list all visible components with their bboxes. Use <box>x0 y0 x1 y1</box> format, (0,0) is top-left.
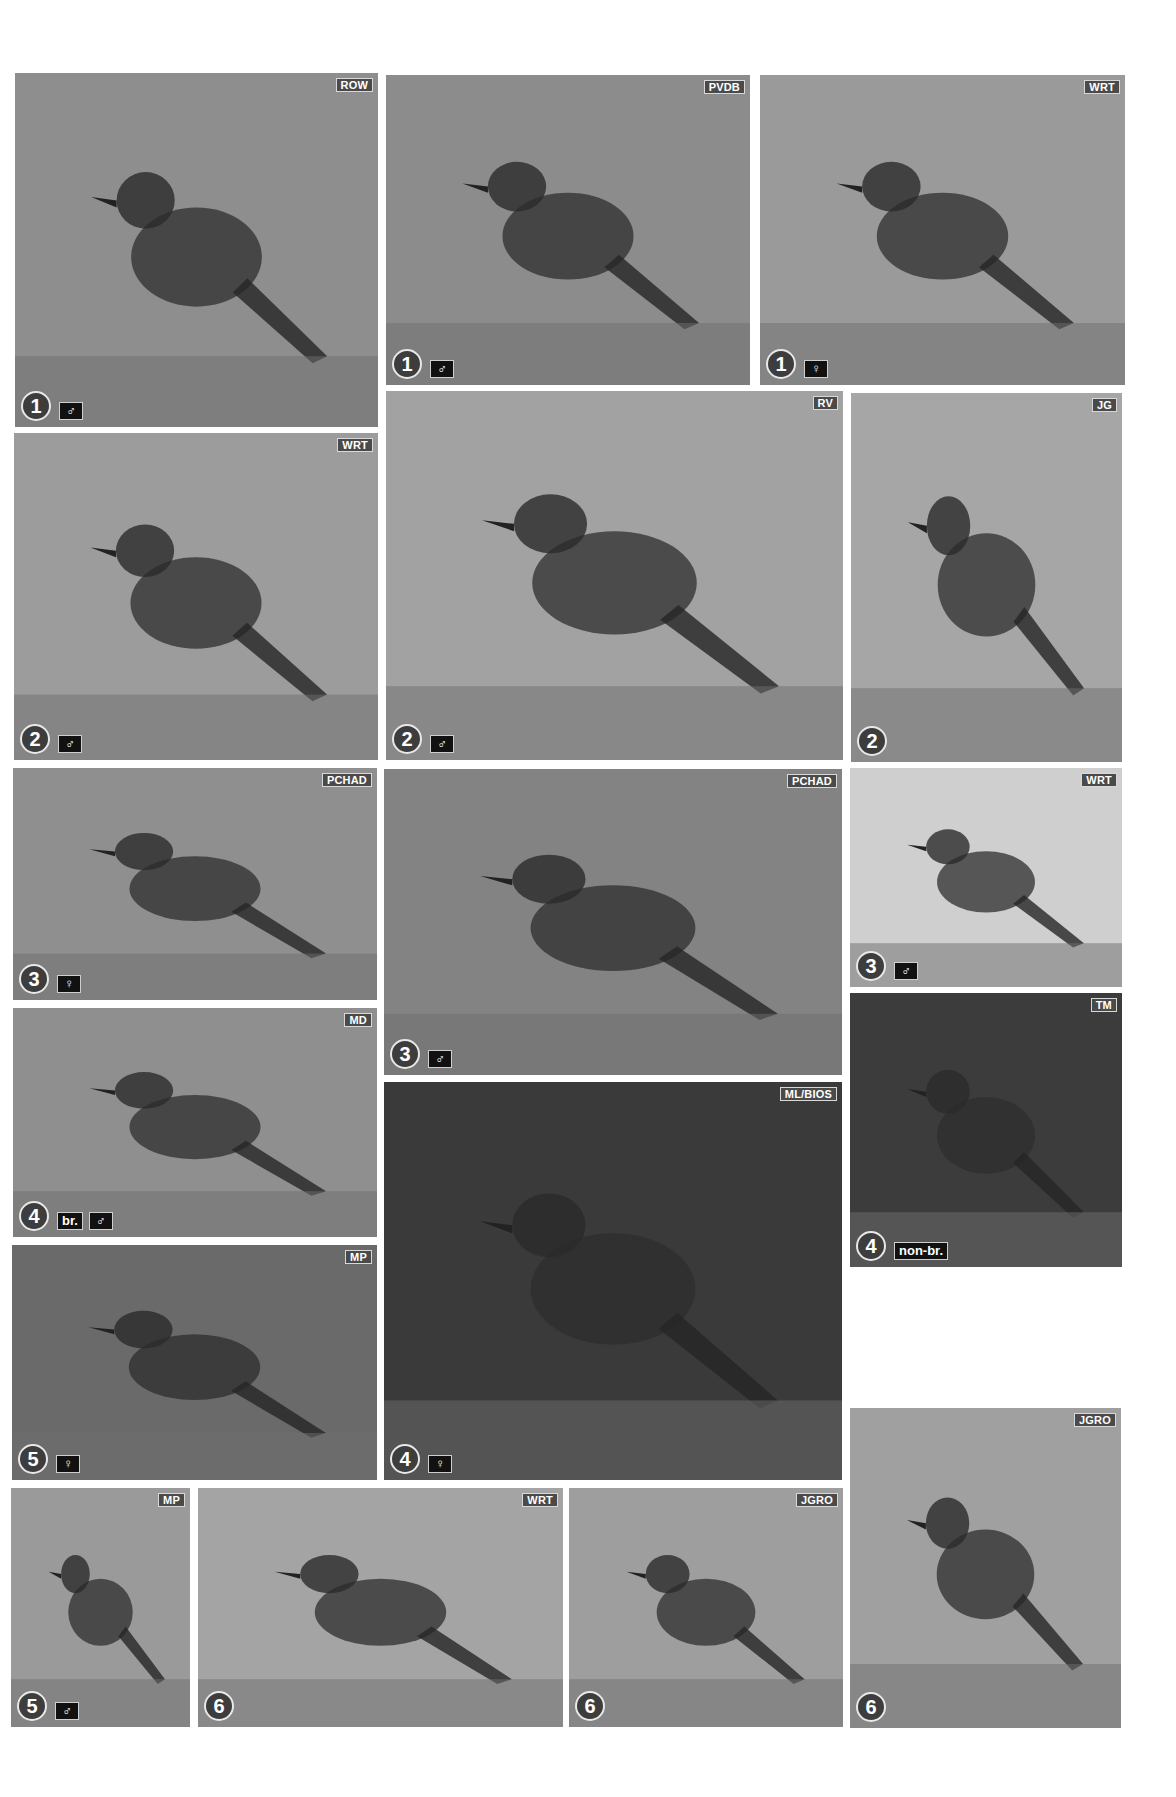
bird-silhouette-icon <box>14 433 378 760</box>
bird-silhouette-icon <box>850 768 1122 987</box>
species-number-badge: 1 <box>766 349 796 379</box>
bird-photo-p2: PVDB 1 ♂ <box>386 75 750 385</box>
female-symbol-icon: ♀ <box>804 360 828 378</box>
photo-credit-label: TM <box>1091 998 1117 1012</box>
bird-silhouette-icon <box>851 393 1122 762</box>
female-symbol-icon: ♀ <box>56 1455 80 1473</box>
bird-silhouette-icon <box>569 1488 843 1727</box>
species-number-badge: 5 <box>17 1691 47 1721</box>
plumage-tags: ♀ <box>428 1455 452 1473</box>
bird-photo-p9: WRT 3 ♂ <box>850 768 1122 987</box>
photo-credit-label: WRT <box>1081 773 1117 787</box>
bird-photo-p5: RV 2 ♂ <box>386 391 843 760</box>
plumage-tags: ♀ <box>56 1455 80 1473</box>
species-number-badge: 3 <box>390 1039 420 1069</box>
bird-photo-p8: PCHAD 3 ♂ <box>384 769 842 1075</box>
bird-silhouette-icon <box>15 73 378 427</box>
bird-photo-p14: MP 5 ♂ <box>11 1488 190 1727</box>
bird-photo-p7: PCHAD 3 ♀ <box>13 768 377 1000</box>
bird-photo-p3: WRT 1 ♀ <box>760 75 1125 385</box>
photo-credit-label: WRT <box>337 438 373 452</box>
male-symbol-icon: ♂ <box>430 735 454 753</box>
bird-silhouette-icon <box>384 1082 842 1480</box>
species-number-badge: 4 <box>390 1444 420 1474</box>
male-symbol-icon: ♂ <box>89 1212 113 1230</box>
bird-silhouette-icon <box>850 1408 1121 1728</box>
species-number-badge: 3 <box>856 951 886 981</box>
bird-photo-p13: MP 5 ♀ <box>12 1245 377 1480</box>
photo-credit-label: PCHAD <box>787 774 837 788</box>
species-number-badge: 6 <box>204 1691 234 1721</box>
plumage-tags: ♂ <box>59 402 83 420</box>
photo-credit-label: RV <box>813 396 838 410</box>
photo-credit-label: PVDB <box>704 80 745 94</box>
plumage-tags: ♂ <box>428 1050 452 1068</box>
bird-silhouette-icon <box>384 769 842 1075</box>
bird-photo-p10: MD 4 br.♂ <box>13 1008 377 1237</box>
photo-credit-label: MP <box>158 1493 185 1507</box>
photo-credit-label: WRT <box>522 1493 558 1507</box>
bird-photo-p17: JGRO 6 <box>850 1408 1121 1728</box>
bird-photo-p12: TM 4 non-br. <box>850 993 1122 1267</box>
plumage-tags: ♀ <box>804 360 828 378</box>
species-number-badge: 3 <box>19 964 49 994</box>
male-symbol-icon: ♂ <box>55 1702 79 1720</box>
photo-credit-label: JGRO <box>1074 1413 1116 1427</box>
male-symbol-icon: ♂ <box>428 1050 452 1068</box>
male-symbol-icon: ♂ <box>58 735 82 753</box>
species-number-badge: 4 <box>19 1201 49 1231</box>
bird-silhouette-icon <box>850 993 1122 1267</box>
plumage-tags: ♂ <box>58 735 82 753</box>
bird-silhouette-icon <box>386 75 750 385</box>
plumage-tags: ♂ <box>894 962 918 980</box>
plumage-tag: non-br. <box>894 1242 948 1260</box>
plumage-tags: ♂ <box>55 1702 79 1720</box>
bird-silhouette-icon <box>386 391 843 760</box>
photo-credit-label: JGRO <box>796 1493 838 1507</box>
plumage-tags: br.♂ <box>57 1212 113 1230</box>
bird-photo-p1: ROW 1 ♂ <box>15 73 378 427</box>
bird-silhouette-icon <box>12 1245 377 1480</box>
bird-photo-p6: JG 2 <box>851 393 1122 762</box>
species-number-badge: 2 <box>20 724 50 754</box>
photo-credit-label: ML/BIOS <box>780 1087 837 1101</box>
plumage-tags: ♂ <box>430 735 454 753</box>
female-symbol-icon: ♀ <box>57 975 81 993</box>
plumage-tag: br. <box>57 1212 83 1230</box>
species-number-badge: 5 <box>18 1444 48 1474</box>
bird-silhouette-icon <box>13 1008 377 1237</box>
species-number-badge: 6 <box>575 1691 605 1721</box>
bird-photo-p4: WRT 2 ♂ <box>14 433 378 760</box>
bird-photo-p15: WRT 6 <box>198 1488 563 1727</box>
photo-credit-label: JG <box>1092 398 1117 412</box>
bird-silhouette-icon <box>13 768 377 1000</box>
photo-credit-label: MP <box>345 1250 372 1264</box>
species-number-badge: 1 <box>392 349 422 379</box>
male-symbol-icon: ♂ <box>59 402 83 420</box>
bird-silhouette-icon <box>760 75 1125 385</box>
species-number-badge: 6 <box>856 1692 886 1722</box>
male-symbol-icon: ♂ <box>430 360 454 378</box>
bird-silhouette-icon <box>11 1488 190 1727</box>
male-symbol-icon: ♂ <box>894 962 918 980</box>
species-number-badge: 2 <box>392 724 422 754</box>
species-number-badge: 4 <box>856 1231 886 1261</box>
bird-silhouette-icon <box>198 1488 563 1727</box>
plumage-tags: ♀ <box>57 975 81 993</box>
photo-credit-label: PCHAD <box>322 773 372 787</box>
species-number-badge: 1 <box>21 391 51 421</box>
plumage-tags: non-br. <box>894 1242 948 1260</box>
photo-credit-label: ROW <box>336 78 373 92</box>
species-number-badge: 2 <box>857 726 887 756</box>
photo-credit-label: MD <box>344 1013 372 1027</box>
bird-photo-p11: ML/BIOS 4 ♀ <box>384 1082 842 1480</box>
plumage-tags: ♂ <box>430 360 454 378</box>
bird-photo-p16: JGRO 6 <box>569 1488 843 1727</box>
photo-credit-label: WRT <box>1084 80 1120 94</box>
female-symbol-icon: ♀ <box>428 1455 452 1473</box>
